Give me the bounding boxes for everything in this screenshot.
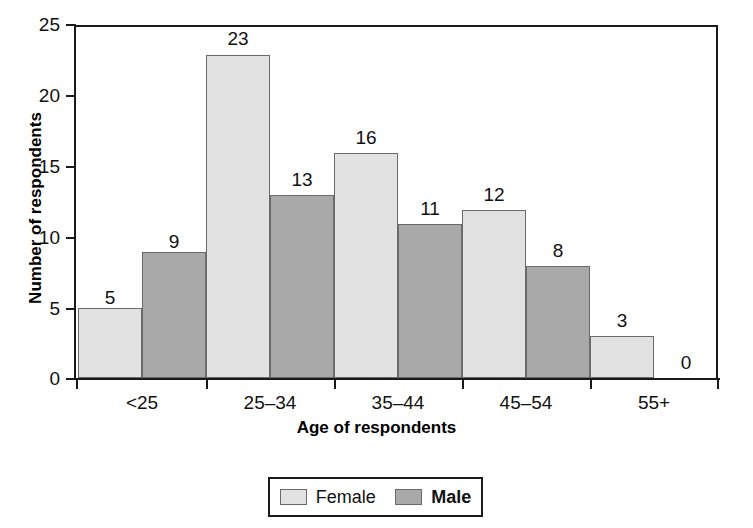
x-tick-1 [206,380,208,389]
y-tick-label-20: 20 [0,86,60,105]
legend-swatch-male-icon [395,489,422,505]
y-tick-15 [66,166,74,168]
bar-male-lt25[interactable] [142,252,206,378]
bar-male-45-54[interactable] [526,266,590,378]
data-label-male-55plus: 0 [654,353,718,372]
y-tick-25 [66,24,74,26]
legend-item-female[interactable]: Female [280,488,376,506]
x-tick-5 [717,380,719,389]
bar-female-55plus[interactable] [590,336,654,378]
x-tick-3 [462,380,464,389]
bar-male-35-44[interactable] [398,224,462,378]
x-label-45-54: 45–54 [462,392,590,413]
bar-female-35-44[interactable] [334,153,398,378]
legend-item-male[interactable]: Male [395,488,471,506]
data-label-female-lt25: 5 [78,288,142,307]
x-label-55plus: 55+ [590,392,718,413]
x-axis-line [66,378,720,380]
bar-chart: Number of respondents 25 20 15 10 5 0 5 … [0,0,753,528]
bar-female-45-54[interactable] [462,210,526,378]
y-tick-0 [66,378,74,380]
x-label-25-34: 25–34 [206,392,334,413]
x-label-35-44: 35–44 [334,392,462,413]
data-label-male-lt25: 9 [142,232,206,251]
y-tick-20 [66,95,74,97]
y-tick-label-25: 25 [0,15,60,34]
y-tick-label-5: 5 [0,299,60,318]
x-tick-2 [334,380,336,389]
data-label-female-35-44: 16 [334,128,398,147]
y-tick-5 [66,308,74,310]
data-label-male-35-44: 11 [398,199,462,218]
bar-female-lt25[interactable] [78,308,142,378]
y-tick-10 [66,237,74,239]
data-label-male-45-54: 8 [526,241,590,260]
bar-male-25-34[interactable] [270,195,334,378]
legend-label-male: Male [431,488,471,506]
x-label-lt25: <25 [78,392,206,413]
bar-female-25-34[interactable] [206,55,270,378]
data-label-female-45-54: 12 [462,185,526,204]
x-axis-title: Age of respondents [0,418,753,438]
legend-label-female: Female [316,488,376,506]
data-label-female-25-34: 23 [206,29,270,48]
y-tick-label-10: 10 [0,228,60,247]
legend-swatch-female-icon [280,489,307,505]
data-label-female-55plus: 3 [590,311,654,330]
chart-title-clipped [0,0,753,1]
y-tick-label-0: 0 [0,369,60,388]
x-tick-4 [590,380,592,389]
x-tick-0 [76,380,78,389]
y-tick-label-15: 15 [0,157,60,176]
legend: Female Male [268,477,483,517]
data-label-male-25-34: 13 [270,170,334,189]
